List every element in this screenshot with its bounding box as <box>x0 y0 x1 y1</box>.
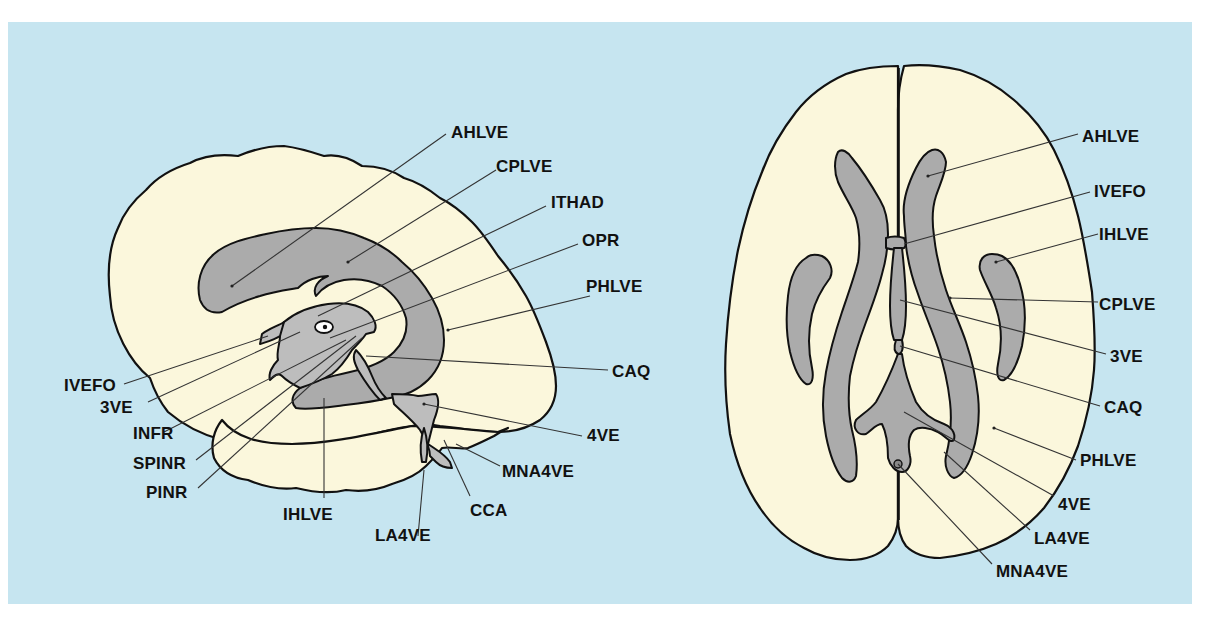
sagittal-label-4ve: 4VE <box>587 427 620 444</box>
axial-label-ahlve: AHLVE <box>1082 128 1139 145</box>
sagittal-label-mna4ve: MNA4VE <box>502 463 574 480</box>
axial-label-ivefo: IVEFO <box>1094 183 1146 200</box>
axial-label-cplve: CPLVE <box>1099 296 1155 313</box>
sagittal-label-spinr: SPINR <box>133 455 186 472</box>
sagittal-label-ithad: ITHAD <box>551 194 604 211</box>
sagittal-label-infr: INFR <box>133 425 173 442</box>
axial-brain <box>725 65 1095 560</box>
sagittal-label-ahlve: AHLVE <box>451 124 508 141</box>
sagittal-brain <box>109 146 556 492</box>
sagittal-label-phlve: PHLVE <box>586 278 642 295</box>
axial-label-phlve: PHLVE <box>1080 452 1136 469</box>
sagittal-label-cplve: CPLVE <box>496 158 552 175</box>
sagittal-label-opr: OPR <box>582 232 619 249</box>
sagittal-label-3ve: 3VE <box>100 399 133 416</box>
sagittal-label-pinr: PINR <box>146 484 187 501</box>
sagittal-label-cca: CCA <box>470 502 507 519</box>
axial-label-3ve: 3VE <box>1110 348 1143 365</box>
axial-label-la4ve: LA4VE <box>1034 530 1090 547</box>
sagittal-label-caq: CAQ <box>612 363 650 380</box>
axial-label-ihlve: IHLVE <box>1099 226 1149 243</box>
axial-label-caq: CAQ <box>1104 399 1142 416</box>
sagittal-label-ivefo: IVEFO <box>64 377 116 394</box>
axial-label-4ve: 4VE <box>1058 496 1091 513</box>
sagittal-label-ihlve: IHLVE <box>283 506 333 523</box>
axial-label-mna4ve: MNA4VE <box>996 563 1068 580</box>
ventricle-diagram <box>0 0 1206 628</box>
sagittal-label-la4ve: LA4VE <box>375 527 431 544</box>
